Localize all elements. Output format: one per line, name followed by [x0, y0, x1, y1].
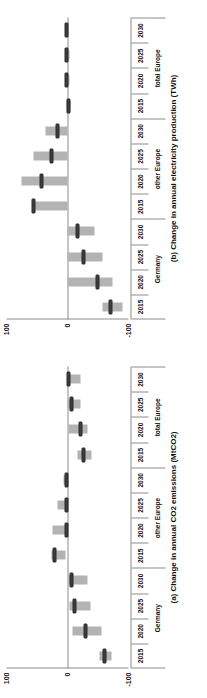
panel-title: (a) Change in annual CO2 emissions (MtCO… — [168, 366, 177, 668]
year-tick-label: 2030 — [131, 218, 148, 243]
range-bar — [67, 226, 94, 235]
year-tick-label: 2030 — [131, 118, 148, 143]
y-tick-label: 0 — [64, 672, 71, 676]
year-tick-label: 2025 — [131, 244, 148, 269]
year-tick-label: 2030 — [131, 17, 148, 42]
central-estimate-marker — [81, 447, 85, 462]
group-label-row: Germanyother Europetotal Europe — [148, 366, 165, 668]
central-estimate-marker — [69, 396, 73, 411]
year-tick-row: 2015202020252030201520202025203020152020… — [131, 366, 148, 668]
year-tick-row: 2015202020252030201520202025203020152020… — [131, 17, 148, 319]
central-estimate-marker — [75, 223, 79, 238]
year-tick-label: 2025 — [131, 42, 148, 67]
central-estimate-marker — [64, 22, 68, 37]
year-tick-label: 2020 — [131, 67, 148, 92]
group-label: other Europe — [148, 118, 165, 219]
central-estimate-marker — [64, 522, 68, 537]
central-estimate-marker — [81, 249, 85, 264]
central-estimate-marker — [83, 623, 87, 638]
year-tick-label: 2030 — [131, 567, 148, 592]
central-estimate-marker — [64, 472, 68, 487]
figure-root: 1000-10020152020202520302015202020252030… — [0, 0, 207, 698]
range-bar — [67, 277, 112, 286]
year-tick-label: 2025 — [131, 143, 148, 168]
range-bar — [52, 525, 65, 534]
range-bar — [32, 201, 67, 210]
panel-b-rotated: 1000-10020152020202520302015202020252030… — [0, 0, 207, 349]
central-estimate-marker — [64, 72, 68, 87]
y-tick-label: -100 — [125, 672, 132, 686]
year-tick-label: 2030 — [131, 366, 148, 391]
category-axis: 2015202020252030201520202025203020152020… — [130, 366, 164, 668]
year-tick-label: 2025 — [131, 391, 148, 416]
panel-a-slot: 1000-10020152020202520302015202020252030… — [0, 349, 207, 698]
year-tick-label: 2015 — [131, 294, 148, 319]
central-estimate-marker — [39, 173, 43, 188]
year-tick-label: 2015 — [131, 643, 148, 668]
central-estimate-marker — [31, 198, 35, 213]
central-estimate-marker — [55, 123, 59, 138]
central-estimate-marker — [95, 274, 99, 289]
central-estimate-marker — [102, 648, 106, 663]
central-estimate-marker — [108, 299, 112, 314]
central-estimate-marker — [66, 371, 70, 386]
year-tick-label: 2015 — [131, 93, 148, 118]
group-label: total Europe — [148, 17, 165, 118]
group-label-row: Germanyother Europetotal Europe — [148, 17, 165, 319]
y-tick-label: 100 — [3, 323, 10, 335]
chart-panel-b: 1000-10020152020202520302015202020252030… — [0, 0, 207, 349]
central-estimate-marker — [52, 547, 56, 562]
group-label: other Europe — [148, 467, 165, 568]
zero-baseline — [67, 366, 68, 668]
plot-area: 1000-100 — [6, 366, 128, 668]
year-tick-label: 2020 — [131, 416, 148, 441]
central-estimate-marker — [72, 598, 76, 613]
year-tick-label: 2015 — [131, 542, 148, 567]
year-tick-label: 2015 — [131, 193, 148, 218]
central-estimate-marker — [49, 148, 53, 163]
y-tick-label: 100 — [3, 672, 10, 684]
y-tick-label: 0 — [64, 323, 71, 327]
year-tick-label: 2020 — [131, 168, 148, 193]
group-label: Germany — [148, 218, 165, 319]
group-label: Germany — [148, 567, 165, 668]
plot-area: 1000-100 — [6, 17, 128, 319]
year-tick-label: 2020 — [131, 517, 148, 542]
group-label: total Europe — [148, 366, 165, 467]
year-tick-label: 2015 — [131, 442, 148, 467]
year-tick-label: 2025 — [131, 593, 148, 618]
range-bar — [21, 176, 67, 185]
panel-a-rotated: 1000-10020152020202520302015202020252030… — [0, 349, 207, 698]
year-tick-label: 2030 — [131, 467, 148, 492]
central-estimate-marker — [64, 497, 68, 512]
category-axis: 2015202020252030201520202025203020152020… — [130, 17, 164, 319]
panel-title: (b) Change in annual electricity product… — [168, 17, 177, 319]
central-estimate-marker — [66, 98, 70, 113]
central-estimate-marker — [78, 421, 82, 436]
year-tick-label: 2025 — [131, 492, 148, 517]
year-tick-label: 2020 — [131, 618, 148, 643]
central-estimate-marker — [69, 572, 73, 587]
panel-b-slot: 1000-10020152020202520302015202020252030… — [0, 0, 207, 349]
year-tick-label: 2020 — [131, 269, 148, 294]
chart-panel-a: 1000-10020152020202520302015202020252030… — [0, 349, 207, 698]
central-estimate-marker — [64, 47, 68, 62]
y-tick-label: -100 — [125, 323, 132, 337]
